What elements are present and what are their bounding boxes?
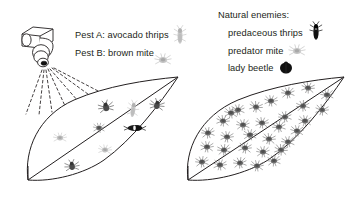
spray-nozzle-icon bbox=[22, 27, 53, 67]
legend-item-lady-beetle: lady beetle bbox=[228, 64, 274, 73]
brown-mite-icon bbox=[155, 54, 171, 64]
diagram-canvas: Pest A: avocado thrips Pest B: brown mit… bbox=[0, 0, 355, 197]
avocado-thrips-icon bbox=[174, 26, 186, 44]
pest-b-label: Pest B: brown mite bbox=[75, 49, 154, 58]
lady-beetle-icon bbox=[280, 62, 292, 74]
legend-item-predaceous-thrips: predaceous thrips bbox=[228, 29, 303, 38]
pest-a-label: Pest A: avocado thrips bbox=[75, 31, 169, 40]
treated-leaf bbox=[27, 77, 178, 180]
natural-enemies-heading: Natural enemies: bbox=[218, 11, 289, 20]
predaceous-thrips-icon bbox=[310, 22, 322, 40]
untreated-leaf bbox=[187, 77, 344, 180]
legend-item-predator-mite: predator mite bbox=[228, 47, 283, 56]
predator-mite-icon bbox=[289, 45, 305, 55]
